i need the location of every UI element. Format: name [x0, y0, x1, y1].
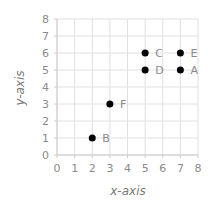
y-tick-label: 6	[42, 47, 49, 60]
scatter-chart: 012345678 012345678 ABCDEF x-axis y-axis	[0, 0, 215, 212]
x-tick-label: 3	[106, 162, 113, 175]
y-tick-label: 7	[42, 30, 49, 43]
y-tick-label: 8	[42, 13, 49, 26]
y-tick-label: 1	[42, 132, 49, 145]
x-axis-label: x-axis	[109, 184, 145, 198]
data-point-b	[89, 135, 96, 142]
x-tick-label: 8	[195, 162, 202, 175]
point-label-c: C	[155, 47, 163, 60]
x-tick-label: 6	[159, 162, 166, 175]
data-point-a	[177, 67, 184, 74]
x-tick-label: 2	[89, 162, 96, 175]
grid-lines	[57, 19, 198, 155]
point-label-e: E	[190, 47, 197, 60]
y-tick-label: 2	[42, 115, 49, 128]
point-label-a: A	[190, 64, 198, 77]
point-label-d: D	[155, 64, 163, 77]
point-label-f: F	[120, 98, 126, 111]
x-tick-label: 7	[177, 162, 184, 175]
x-tick-label: 1	[71, 162, 78, 175]
y-tick-label: 4	[42, 81, 49, 94]
data-point-e	[177, 50, 184, 57]
y-tick-label: 0	[42, 149, 49, 162]
y-tick-label: 5	[42, 64, 49, 77]
data-point-c	[142, 50, 149, 57]
point-label-b: B	[102, 132, 110, 145]
x-tick-label: 5	[142, 162, 149, 175]
x-tick-labels: 012345678	[54, 162, 202, 175]
y-tick-labels: 012345678	[42, 13, 49, 162]
data-points: ABCDEF	[89, 47, 199, 145]
data-point-d	[142, 67, 149, 74]
data-point-f	[106, 101, 113, 108]
x-tick-label: 4	[124, 162, 131, 175]
x-tick-label: 0	[54, 162, 61, 175]
y-axis-label: y-axis	[13, 70, 27, 106]
y-tick-label: 3	[42, 98, 49, 111]
axes	[54, 19, 198, 158]
